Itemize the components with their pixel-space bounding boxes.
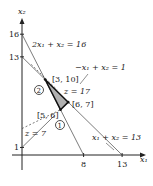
vertex-point (59, 108, 62, 111)
svg-text:2: 2 (37, 87, 41, 95)
objective-label-z17: z = 17 (63, 87, 91, 96)
y-tick-label: 1 (14, 143, 19, 152)
x-tick-label: 13 (117, 160, 127, 169)
x-axis-label: x₁ (140, 155, 148, 164)
y-axis-arrow (20, 18, 25, 24)
constraint-label-neg-x1-x2-1: −x₁ + x₂ = 1 (75, 63, 126, 72)
vertex-point (44, 78, 47, 81)
ticks: 81311316 (9, 30, 127, 169)
circled-marker-2: 2 (35, 86, 44, 96)
point-label-3-10: [3, 10] (52, 75, 79, 84)
constraint-label-2x1-x2-16: 2x₁ + x₂ = 16 (31, 40, 86, 49)
y-tick-label: 16 (9, 30, 19, 39)
x-tick-label: 8 (81, 160, 86, 169)
leader-neg-x1-x2-1 (80, 74, 88, 84)
point-label-6-7: [6, 7] (72, 100, 94, 109)
vertex-point (67, 101, 70, 104)
y-axis-label: x₂ (18, 7, 26, 16)
circled-marker-1: 1 (56, 121, 65, 131)
objective-label-z7: z = 7 (24, 129, 47, 138)
y-tick-label: 13 (9, 53, 19, 62)
svg-text:1: 1 (58, 122, 62, 130)
leader-x1-x2-13 (106, 143, 114, 150)
lp-diagram: x₁ x₂ 81311316 2x₁ + x₂ = 16 −x₁ + x₂ = … (0, 0, 153, 186)
point-label-5-6: [5, 6] (37, 111, 59, 120)
constraint-label-x1-x2-13: x₁ + x₂ = 13 (92, 133, 141, 142)
